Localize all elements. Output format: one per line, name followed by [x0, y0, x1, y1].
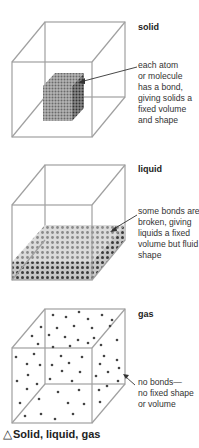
note-line: no bonds— [138, 377, 199, 388]
note-line: or volume [138, 399, 199, 410]
note-line: giving solids a [138, 93, 199, 104]
gas-particles [15, 311, 121, 421]
solid-title: solid [138, 22, 159, 32]
solid-panel: solid each atom or molecule has a bond, … [0, 0, 199, 150]
note-line: liquids a fixed [138, 228, 199, 239]
caption-text: Solid, liquid, gas [13, 428, 100, 440]
gas-title: gas [138, 309, 154, 319]
solid-arrow [80, 67, 137, 82]
figure-caption: △Solid, liquid, gas [3, 427, 100, 441]
note-line: or molecule [138, 71, 199, 82]
note-line: has a bond, [138, 82, 199, 93]
note-line: and shape [138, 115, 199, 126]
note-line: each atom [138, 60, 199, 71]
note-line: some bonds are [138, 206, 199, 217]
note-line: no fixed shape [138, 388, 199, 399]
liquid-note: some bonds are broken, giving liquids a … [138, 206, 199, 261]
note-line: volume but fluid [138, 239, 199, 250]
note-line: broken, giving [138, 217, 199, 228]
gas-panel: gas no bonds— no fixed shape or volume [0, 295, 199, 425]
liquid-panel: liquid some bonds are broken, giving liq… [0, 150, 199, 295]
note-line: fixed volume [138, 104, 199, 115]
gas-note: no bonds— no fixed shape or volume [138, 377, 199, 410]
solid-block-front [43, 86, 72, 121]
liquid-title: liquid [138, 164, 162, 174]
note-line: shape [138, 250, 199, 261]
solid-note: each atom or molecule has a bond, giving… [138, 60, 199, 126]
triangle-icon: △ [3, 427, 12, 441]
